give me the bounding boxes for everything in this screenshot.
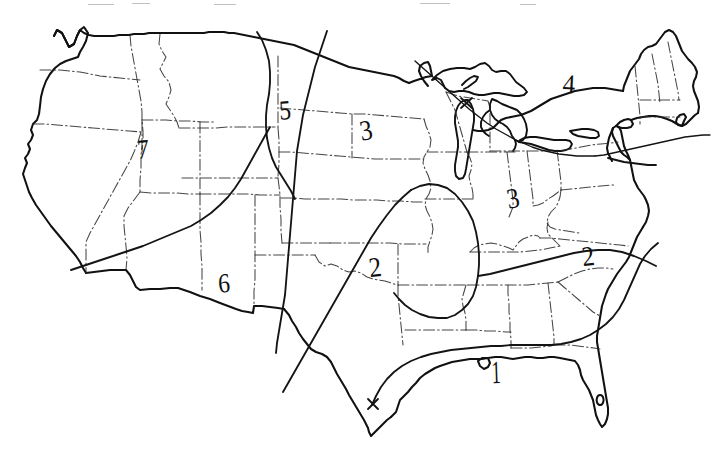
scan-artifact-1 (88, 4, 114, 5)
long-island-coast (631, 113, 698, 126)
scan-artifact-3 (214, 4, 236, 5)
lake-superior (432, 63, 527, 96)
florida-island (597, 395, 604, 405)
pacific-coastline (23, 27, 88, 273)
us-canada-border-lakes (473, 117, 511, 131)
border-in-oh (527, 151, 533, 206)
zone-isolines-group (71, 31, 710, 409)
border-sd-ne (279, 152, 423, 159)
rio-grande-border (284, 309, 391, 436)
border-oh-pa (557, 150, 561, 190)
border-tx-la (398, 285, 403, 345)
lake-erie (519, 137, 572, 151)
lake-ontario (570, 129, 599, 138)
border-ky-tn (470, 246, 560, 252)
chesapeake-delmarva (612, 126, 630, 160)
border-wa-or (40, 70, 140, 80)
california-southern-border (86, 270, 178, 290)
border-ne-ks (281, 198, 425, 202)
border-nv-ca (86, 132, 141, 273)
border-ok-tx (315, 255, 397, 285)
zone-boundary-2-east (478, 250, 656, 276)
zone-boundary-4-east (595, 135, 710, 156)
scan-artifact-4 (420, 3, 450, 4)
border-nm-tx (254, 195, 255, 308)
border-ga-al (548, 283, 554, 345)
border-co-ks (278, 178, 282, 243)
border-oh-wv (533, 190, 561, 206)
lake-superior-keweenaw (462, 76, 478, 89)
zone-boundary-midatlantic-hook (608, 158, 656, 165)
border-al-ms (508, 285, 511, 348)
border-plains-east (423, 119, 433, 253)
chesapeake-bay (607, 128, 613, 161)
border-nh-me (668, 42, 679, 100)
zone-label-7: 7 (136, 135, 150, 163)
border-nv-az (124, 192, 140, 270)
southwest-border (178, 288, 284, 313)
maine-coast (623, 30, 699, 113)
border-ny-newengland (635, 66, 640, 124)
zone-label-5: 5 (278, 96, 292, 124)
zone-boundary-2-3 (394, 184, 479, 318)
border-co-nm (200, 194, 280, 195)
zone-label-1: 1 (491, 356, 501, 389)
carolina-atlantic-coast (630, 160, 649, 227)
figure-root: 1 2 2 3 3 4 5 6 7 (0, 0, 717, 458)
zone-label-6: 6 (217, 269, 231, 297)
scan-artifact-2 (132, 3, 150, 4)
lake-huron-thumb (481, 110, 490, 136)
border-tn-south (468, 282, 558, 285)
border-or-ca (33, 124, 141, 132)
border-pa-md (561, 185, 616, 190)
us-canada-border-northcentral (54, 30, 409, 83)
border-ms-la (466, 330, 511, 332)
border-ky-north (470, 235, 540, 252)
border-id-ut (142, 120, 214, 122)
scan-artifact-5 (520, 4, 536, 5)
zone-boundary-5-3 (276, 31, 327, 353)
border-az-nm (200, 194, 202, 290)
border-ga-fl (554, 345, 600, 349)
border-ks-ok (330, 243, 426, 244)
lake-michigan (455, 100, 474, 179)
border-pa-ny (561, 142, 618, 151)
zone-boundary-6-7 (71, 127, 270, 270)
lake-st-clair-channel (513, 140, 516, 151)
border-mt-wy (179, 127, 275, 128)
border-sc-ga (558, 282, 600, 316)
border-ut-az (140, 192, 200, 194)
border-vt-nh (652, 54, 660, 104)
zone-boundary-6-2 (283, 190, 411, 392)
texas-gulf-coast (391, 358, 488, 417)
us-zone-map (0, 0, 717, 458)
border-id-mt (159, 34, 179, 128)
zone-label-4: 4 (562, 70, 576, 98)
state-boundaries-group (33, 34, 680, 349)
